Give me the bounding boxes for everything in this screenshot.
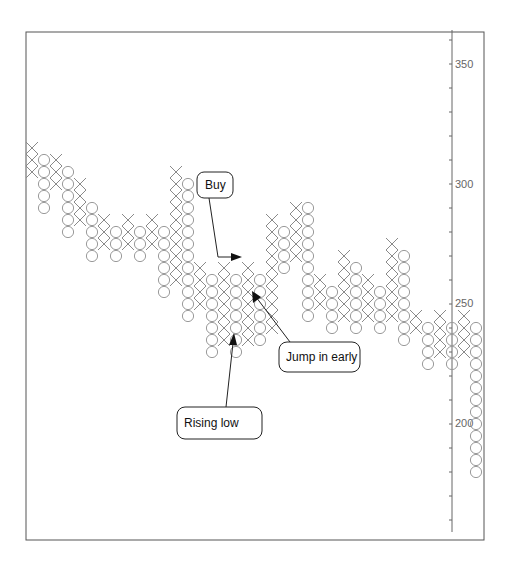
buy-arrow-head (231, 253, 242, 261)
pf-column-x (314, 274, 326, 310)
pf-column-o (302, 202, 313, 321)
pf-column-o (398, 250, 409, 345)
pf-column-x (50, 154, 62, 190)
pf-column-x (386, 238, 398, 322)
pf-column-x (290, 202, 302, 262)
callout-buy-label: Buy (205, 178, 226, 192)
pf-column-x (98, 214, 110, 250)
pf-column-x (458, 310, 470, 358)
pf-column-o (278, 226, 289, 273)
pf-column-o (134, 226, 145, 261)
pf-column-o (110, 226, 121, 261)
pf-column-o (350, 262, 361, 333)
pf-column-x (410, 310, 422, 334)
callout-jump-in-early: Jump in early (279, 342, 360, 372)
pf-column-x (194, 262, 206, 310)
pf-column-x (338, 250, 350, 322)
pf-column-x (434, 310, 446, 358)
pf-column-o (374, 286, 385, 333)
pf-column-x (266, 214, 278, 334)
pf-column-x (362, 274, 374, 322)
pf-column-o (254, 274, 265, 345)
y-axis-ticks (449, 40, 452, 520)
callout-buy: Buy (197, 172, 233, 198)
callout-jump-label: Jump in early (286, 350, 357, 364)
pf-column-x (146, 214, 158, 250)
tick-label-350: 350 (455, 58, 473, 70)
buy-arrow-line (209, 198, 232, 257)
pf-column-x (122, 214, 134, 250)
pf-column-o (62, 166, 73, 237)
pf-column-x (74, 178, 86, 226)
pf-column-o (206, 274, 217, 357)
callout-rising-label: Rising low (184, 416, 239, 430)
tick-label-300: 300 (455, 178, 473, 190)
pf-column-o (422, 322, 433, 369)
pf-column-x (242, 262, 254, 346)
pf-column-o (38, 154, 49, 213)
pf-column-o (230, 274, 241, 357)
pf-column-o (158, 226, 169, 297)
pf-column-o (86, 202, 97, 261)
chart-frame (26, 32, 484, 540)
pf-column-x (170, 166, 182, 286)
pf-column-o (182, 178, 193, 321)
pf-column-o (326, 286, 337, 333)
callout-rising-low: Rising low (177, 407, 262, 439)
pf-chart: 350 300 250 200 Buy Jump in early Rising… (0, 0, 513, 563)
jump-arrow-line (256, 297, 290, 342)
pf-column-x (26, 142, 38, 178)
rising-arrow-line (226, 343, 233, 407)
pf-column-o (470, 322, 481, 477)
tick-label-250: 250 (455, 297, 473, 309)
pf-column-x (218, 262, 230, 346)
